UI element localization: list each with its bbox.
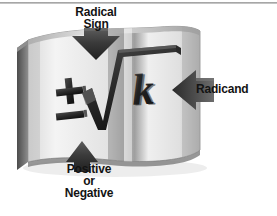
banner-left-edge	[17, 40, 28, 170]
radicand-label-line-1: Radicand	[196, 83, 248, 95]
radical-expression-diagram: k k Radical Sign Radicand Positive or	[0, 0, 277, 216]
radical-sign-label-line-2: Sign	[66, 18, 126, 30]
callout-label-radical-sign: Radical Sign	[66, 6, 126, 30]
pos-neg-label-line-3: Negative	[46, 187, 132, 199]
radicand-glyph: k k	[131, 65, 158, 116]
callout-label-radicand: Radicand	[196, 83, 248, 95]
callout-label-positive-or-negative: Positive or Negative	[46, 163, 132, 200]
svg-text:k: k	[133, 65, 158, 115]
banner-illustration: k k	[0, 0, 277, 216]
